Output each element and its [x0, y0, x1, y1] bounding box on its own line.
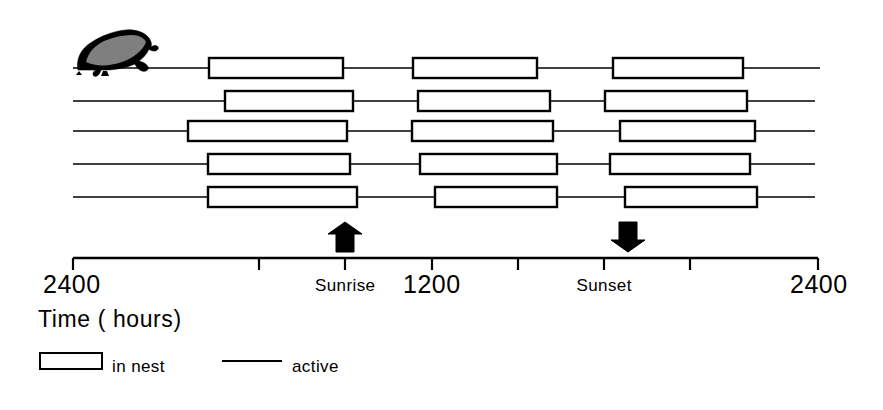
legend-box-symbol — [40, 353, 102, 369]
axis-caption: Time ( hours) — [38, 308, 182, 331]
axis-tick-label: 2400 — [790, 272, 848, 297]
in-nest-box — [209, 58, 343, 78]
data-row — [73, 187, 815, 207]
in-nest-box — [413, 58, 537, 78]
figure-canvas — [0, 0, 883, 410]
in-nest-box — [605, 91, 747, 111]
sunset-arrow-icon — [611, 222, 645, 252]
rodent-foot-front — [101, 71, 109, 76]
data-row — [73, 58, 820, 78]
in-nest-box — [225, 91, 353, 111]
in-nest-box — [620, 121, 755, 141]
actogram-figure: 2400Sunrise1200Sunset2400 Time ( hours) … — [0, 0, 883, 410]
in-nest-box — [208, 187, 357, 207]
in-nest-box — [420, 154, 557, 174]
rodent-foot-rear — [76, 71, 82, 75]
data-row — [73, 121, 815, 141]
in-nest-box — [435, 187, 557, 207]
data-row — [73, 154, 815, 174]
in-nest-box — [412, 121, 553, 141]
data-row — [73, 91, 815, 111]
sunrise-arrow-icon — [328, 222, 362, 252]
in-nest-box — [208, 154, 350, 174]
axis-tick-label: Sunrise — [315, 277, 375, 294]
legend-label-active: active — [292, 357, 339, 377]
axis-tick-label: Sunset — [577, 277, 632, 294]
in-nest-box — [613, 58, 743, 78]
in-nest-box — [188, 121, 347, 141]
in-nest-box — [625, 187, 757, 207]
axis-tick-label: 2400 — [43, 272, 101, 297]
x-axis — [73, 258, 818, 270]
legend-label-in-nest: in nest — [112, 357, 165, 377]
in-nest-box — [610, 154, 750, 174]
in-nest-box — [418, 91, 550, 111]
axis-tick-label: 1200 — [403, 272, 461, 297]
rodent-silhouette-icon — [76, 30, 158, 77]
